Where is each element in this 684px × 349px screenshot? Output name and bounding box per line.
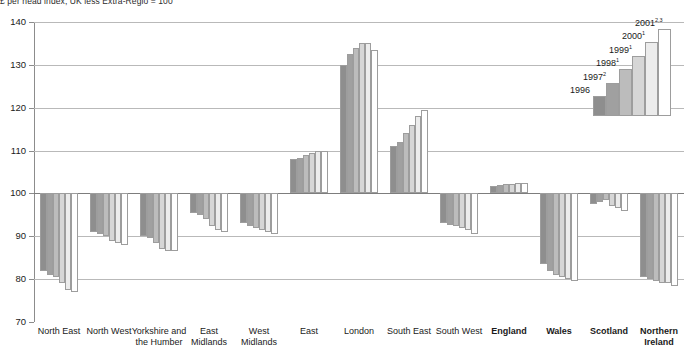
- legend-swatch-1998: [619, 69, 632, 116]
- legend-swatch-2000: [645, 42, 658, 116]
- y-axis-label-90: 90: [0, 230, 26, 241]
- bar: [521, 183, 527, 194]
- bar: [271, 193, 277, 234]
- bar-group: [484, 22, 534, 322]
- bar-group: [434, 22, 484, 322]
- bar: [621, 193, 627, 210]
- chart-canvas: £ per head index, UK less Extra-Regio = …: [0, 0, 684, 349]
- y-axis-label-80: 80: [0, 273, 26, 284]
- bar-group: [234, 22, 284, 322]
- y-tick-90: [29, 236, 34, 237]
- bar-group: [284, 22, 334, 322]
- legend-swatch-1999: [632, 56, 645, 117]
- bar-group: [334, 22, 384, 322]
- y-axis-label-110: 110: [0, 145, 26, 156]
- y-axis-label-130: 130: [0, 59, 26, 70]
- y-tick-80: [29, 279, 34, 280]
- bar-group: [84, 22, 134, 322]
- bar-group: [34, 22, 84, 322]
- y-tick-120: [29, 108, 34, 109]
- bar: [671, 193, 677, 285]
- y-axis-label-120: 120: [0, 102, 26, 113]
- bar: [121, 193, 127, 244]
- legend-label-2000: 20001: [622, 30, 645, 41]
- legend-swatch-1996: [593, 96, 606, 116]
- bar-group: [184, 22, 234, 322]
- y-axis-label-140: 140: [0, 16, 26, 27]
- y-tick-100: [29, 193, 34, 194]
- x-axis-label: Northern Ireland: [628, 326, 684, 347]
- legend-swatch-1997: [606, 83, 619, 117]
- legend-label-1998: 19981: [596, 57, 619, 68]
- bar: [171, 193, 177, 251]
- bar-group: [384, 22, 434, 322]
- y-tick-110: [29, 151, 34, 152]
- chart-legend: 19961997219981199912000120012,3: [575, 18, 684, 128]
- chart-header-note: £ per head index, UK less Extra-Regio = …: [0, 0, 173, 6]
- y-tick-70: [29, 322, 34, 323]
- legend-label-1999: 19991: [609, 44, 632, 55]
- bar: [371, 50, 377, 194]
- legend-label-1996: 1996: [570, 85, 590, 95]
- legend-label-1997: 19972: [583, 71, 606, 82]
- legend-label-2001: 20012,3: [635, 17, 663, 28]
- bar: [221, 193, 227, 232]
- y-axis-label-100: 100: [0, 187, 26, 198]
- y-tick-140: [29, 22, 34, 23]
- bar: [71, 193, 77, 292]
- y-tick-130: [29, 65, 34, 66]
- bar: [571, 193, 577, 281]
- legend-swatch-2001: [658, 29, 671, 117]
- bar: [321, 151, 327, 194]
- bar: [421, 110, 427, 194]
- bar-group: [134, 22, 184, 322]
- bar: [471, 193, 477, 234]
- y-axis-label-70: 70: [0, 316, 26, 327]
